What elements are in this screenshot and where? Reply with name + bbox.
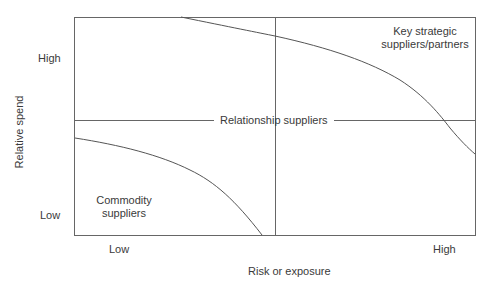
region-commodity-line2: suppliers — [84, 207, 164, 220]
x-axis-high-label: High — [433, 243, 456, 256]
lower-boundary-curve — [75, 138, 262, 235]
region-key-strategic-line1: Key strategic — [370, 25, 480, 38]
region-key-strategic: Key strategic suppliers/partners — [370, 25, 480, 51]
region-commodity: Commodity suppliers — [84, 194, 164, 220]
y-axis-high-label: High — [38, 52, 61, 65]
region-key-strategic-line2: suppliers/partners — [370, 38, 480, 51]
region-commodity-line1: Commodity — [84, 194, 164, 207]
x-axis-low-label: Low — [109, 243, 129, 256]
region-relationship: Relationship suppliers — [220, 114, 328, 127]
y-axis-low-label: Low — [40, 209, 60, 222]
x-axis-label: Risk or exposure — [248, 265, 331, 278]
y-axis-label: Relative spend — [13, 92, 25, 172]
